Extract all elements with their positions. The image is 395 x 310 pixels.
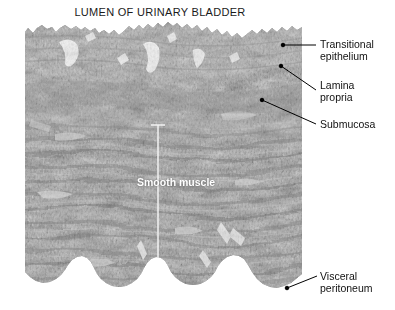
figure-title: LUMEN OF URINARY BLADDER: [0, 6, 320, 18]
micrograph-container: Smooth muscle: [25, 22, 302, 292]
smooth-muscle-label: Smooth muscle: [137, 176, 215, 188]
label-lamina-propria-line1: Lamina: [320, 79, 354, 91]
label-lamina-propria: Lamina propria: [320, 79, 354, 103]
label-visceral-peritoneum-line2: peritoneum: [320, 282, 373, 294]
label-transitional-epithelium-line1: Transitional: [320, 38, 374, 50]
bladder-wall-micrograph: [25, 22, 302, 292]
label-visceral-peritoneum: Visceral peritoneum: [320, 270, 373, 294]
label-transitional-epithelium-line2: epithelium: [320, 50, 374, 62]
tissue-body: [25, 22, 302, 292]
histology-figure: LUMEN OF URINARY BLADDER: [0, 0, 395, 310]
label-lamina-propria-line2: propria: [320, 91, 354, 103]
label-visceral-peritoneum-line1: Visceral: [320, 270, 373, 282]
label-transitional-epithelium: Transitional epithelium: [320, 38, 374, 62]
label-submucosa: Submucosa: [320, 118, 375, 130]
